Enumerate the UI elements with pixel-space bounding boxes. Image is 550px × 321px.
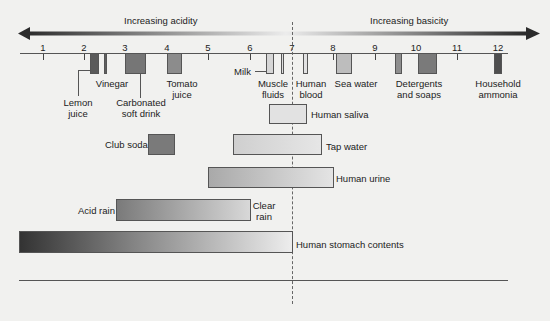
label-carbonated-soft-drink: Carbonatedsoft drink	[116, 97, 166, 119]
label-acid-rain: Acid rain	[78, 205, 115, 216]
tick-label-2: 2	[81, 42, 86, 53]
bar-lemon-juice	[90, 53, 99, 74]
tick-5	[208, 54, 209, 60]
bar-human-urine	[208, 167, 334, 188]
bar-vinegar	[104, 53, 107, 74]
bar-detergents-soaps-a	[395, 53, 402, 74]
tick-8	[333, 54, 334, 60]
increasing-basicity-label: Increasing basicity	[370, 15, 448, 26]
leader-lemon	[78, 70, 90, 71]
label-tap-water: Tap water	[326, 141, 367, 152]
acidity-basicity-arrow	[0, 26, 550, 42]
bar-tomato-juice	[167, 53, 182, 74]
label-human-urine: Human urine	[336, 173, 390, 184]
bar-household-ammonia	[494, 53, 502, 74]
leader-lemon-v	[78, 70, 79, 96]
label-human-saliva: Human saliva	[311, 109, 369, 120]
label-clear-rain: Clearrain	[253, 200, 276, 222]
tick-1	[43, 54, 44, 60]
bar-sea-water	[336, 53, 352, 74]
bar-milk	[266, 53, 274, 74]
leader-carbonated	[140, 74, 141, 98]
label-lemon-juice: Lemonjuice	[63, 97, 92, 119]
bar-carbonated-soft-drink	[125, 53, 146, 74]
bar-club-soda	[148, 134, 175, 155]
tick-label-8: 8	[330, 42, 335, 53]
label-human-stomach-contents: Human stomach contents	[296, 239, 404, 250]
tick-2	[84, 54, 85, 60]
label-vinegar: Vinegar	[96, 78, 129, 89]
tick-6	[250, 54, 251, 60]
tick-label-3: 3	[122, 42, 127, 53]
label-milk: Milk	[234, 66, 251, 77]
label-club-soda: Club soda	[105, 139, 148, 150]
tick-9	[375, 54, 376, 60]
bar-human-stomach-contents	[19, 231, 293, 253]
bar-acid-to-clear-rain	[116, 199, 251, 221]
bar-human-saliva	[269, 104, 307, 124]
tick-label-12: 12	[493, 42, 504, 53]
tick-label-9: 9	[372, 42, 377, 53]
tick-label-1: 1	[40, 42, 45, 53]
tick-label-11: 11	[452, 42, 462, 53]
bar-muscle-fluids	[281, 53, 284, 74]
bar-human-blood	[303, 53, 308, 74]
bar-tap-water	[233, 134, 322, 155]
tick-label-10: 10	[411, 42, 422, 53]
increasing-acidity-label: Increasing acidity	[124, 15, 197, 26]
label-sea-water: Sea water	[335, 78, 378, 89]
leader-milk	[255, 71, 266, 72]
label-household-ammonia: Householdammonia	[475, 78, 520, 100]
label-tomato-juice: Tomatojuice	[166, 78, 197, 100]
tick-label-5: 5	[205, 42, 210, 53]
label-human-blood: Humanblood	[296, 78, 327, 100]
tick-label-6: 6	[247, 42, 252, 53]
tick-11	[457, 54, 458, 60]
bottom-rule	[19, 280, 508, 281]
bar-detergents-soaps-b	[418, 53, 437, 74]
label-muscle-fluids: Musclefluids	[258, 78, 288, 100]
neutral-ph7-line	[292, 22, 293, 304]
tick-label-4: 4	[164, 42, 169, 53]
label-detergents-soaps: Detergentsand soaps	[396, 78, 442, 100]
